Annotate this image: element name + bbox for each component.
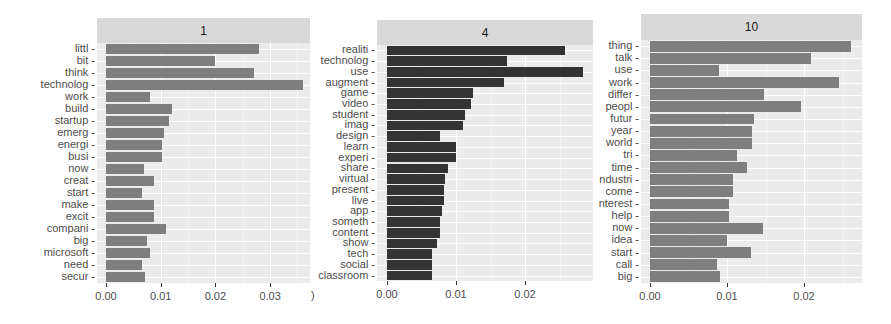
- bar: [650, 150, 737, 161]
- bar: [106, 188, 142, 199]
- category-text: now: [68, 162, 88, 174]
- x-tick-mark: [161, 283, 162, 287]
- category-text: creat: [64, 174, 88, 186]
- tick-mark: -: [635, 270, 639, 282]
- category-label: need-: [64, 259, 95, 270]
- bar: [650, 223, 763, 234]
- bar: [387, 99, 471, 109]
- tick-mark: -: [635, 124, 639, 136]
- bar: [650, 174, 733, 185]
- category-text: build: [65, 102, 88, 114]
- x-tick-mark: [727, 283, 728, 287]
- tick-mark: -: [91, 66, 95, 78]
- tick-mark: -: [91, 234, 95, 246]
- bar: [106, 140, 162, 151]
- x-tick-mark: [270, 283, 271, 287]
- bar: [387, 185, 444, 195]
- bar: [650, 114, 754, 125]
- category-label: excit-: [66, 211, 95, 222]
- category-label: futur-: [610, 113, 639, 124]
- category-text: year: [611, 124, 632, 136]
- bar: [387, 56, 507, 66]
- bar: [106, 176, 154, 187]
- category-text: peopl: [605, 100, 632, 112]
- x-tick-label: 0.01: [150, 290, 171, 302]
- category-label: compani-: [47, 223, 95, 234]
- category-text: now: [612, 221, 632, 233]
- category-text: start: [611, 246, 632, 258]
- x-tick-mark: [215, 283, 216, 287]
- gridline: [525, 45, 526, 281]
- bar: [387, 164, 448, 174]
- tick-mark: -: [91, 54, 95, 66]
- category-text: start: [67, 186, 88, 198]
- category-label: make-: [61, 199, 95, 210]
- tick-mark: -: [635, 246, 639, 258]
- tick-mark: -: [635, 258, 639, 270]
- y-axis-labels: realiti-technolog-use-augment-game-video…: [310, 45, 375, 285]
- bar: [650, 126, 752, 137]
- x-tick-label: 0.00: [95, 290, 116, 302]
- category-text: call: [616, 258, 633, 270]
- category-label: emerg-: [57, 127, 95, 138]
- category-label: peopl-: [605, 101, 639, 112]
- category-label: big-: [618, 271, 639, 282]
- bar: [106, 152, 162, 163]
- bar: [650, 138, 752, 149]
- bar: [106, 56, 215, 67]
- tick-mark: -: [635, 63, 639, 75]
- bar: [387, 110, 465, 120]
- facet-strip-label: 4: [377, 20, 593, 45]
- category-label: come-: [605, 186, 639, 197]
- bar: [106, 128, 164, 139]
- bar: [106, 68, 254, 79]
- tick-mark: -: [635, 185, 639, 197]
- bar: [106, 104, 172, 115]
- category-text: thing: [608, 40, 632, 51]
- tick-mark: -: [91, 162, 95, 174]
- tick-mark: -: [91, 126, 95, 138]
- category-label: idea-: [612, 234, 639, 245]
- x-tick-label: 0.00: [376, 288, 397, 300]
- tick-mark: -: [91, 102, 95, 114]
- category-text: need: [64, 258, 88, 270]
- category-label: littl-: [75, 43, 95, 54]
- x-tick-label: 0.01: [445, 288, 466, 300]
- bar: [106, 80, 303, 91]
- bar: [106, 272, 145, 283]
- category-text: help: [612, 209, 633, 221]
- bar: [106, 200, 154, 211]
- tick-mark: -: [91, 78, 95, 90]
- category-text: big: [74, 234, 89, 246]
- x-tick-label: 0.00: [639, 290, 660, 302]
- clipped-tick-fragment: ): [311, 289, 315, 301]
- bar: [106, 260, 142, 271]
- tick-mark: -: [635, 100, 639, 112]
- bar: [387, 206, 442, 216]
- tick-mark: -: [91, 198, 95, 210]
- category-label: big-: [74, 235, 95, 246]
- bar: [650, 247, 751, 258]
- bar: [387, 121, 463, 131]
- x-tick-mark: [456, 281, 457, 285]
- x-tick-label: 0.02: [514, 288, 535, 300]
- category-label: energi-: [58, 139, 95, 150]
- tick-mark: -: [91, 258, 95, 270]
- category-text: classroom: [318, 269, 368, 281]
- bar: [387, 228, 440, 238]
- category-text: bit: [77, 54, 89, 66]
- category-text: futur: [610, 112, 632, 124]
- category-label: now-: [612, 222, 639, 233]
- bar: [387, 88, 473, 98]
- x-tick-label: 0.03: [259, 290, 280, 302]
- category-text: come: [605, 185, 632, 197]
- bar: [650, 77, 839, 88]
- bar: [650, 65, 719, 76]
- tick-mark: -: [91, 186, 95, 198]
- category-text: ndustri: [599, 173, 632, 185]
- bar: [106, 212, 154, 223]
- gridline: [560, 45, 561, 281]
- category-label: work-: [65, 91, 95, 102]
- facet-strip-label: 10: [641, 14, 862, 40]
- x-tick-mark: [106, 283, 107, 287]
